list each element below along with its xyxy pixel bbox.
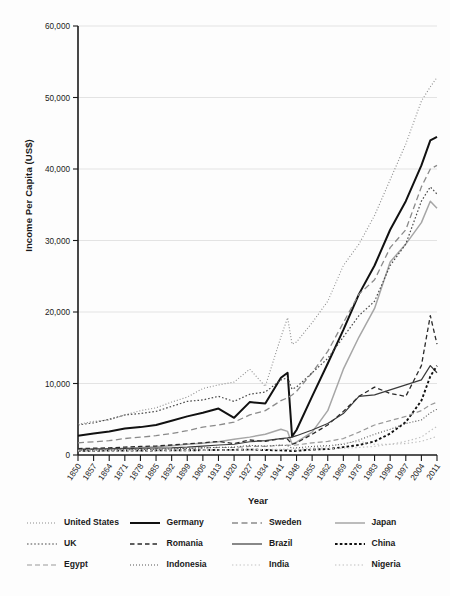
legend-item[interactable]: Germany (129, 518, 232, 528)
series-line (78, 137, 437, 437)
y-tick-label: 0 (65, 451, 70, 460)
legend-swatch-line-icon (26, 560, 58, 570)
x-tick-label: 1885 (143, 462, 161, 482)
series-line (78, 165, 437, 442)
legend-item[interactable]: Brazil (231, 539, 334, 549)
legend-swatch-line-icon (231, 518, 263, 528)
x-tick-label: 1927 (237, 462, 255, 482)
x-tick-label: 1997 (393, 462, 411, 482)
chart-svg: 010,00020,00030,00040,00050,00060,000185… (0, 0, 450, 510)
legend-item[interactable]: China (334, 539, 437, 549)
x-tick-label: 1934 (253, 462, 271, 482)
legend-item-label: India (269, 560, 289, 569)
series-line (78, 402, 437, 450)
legend-item-label: United States (64, 518, 119, 527)
x-tick-label: 1920 (221, 462, 239, 482)
legend-swatch-line-icon (129, 560, 161, 570)
series-line (78, 366, 437, 450)
legend-item[interactable]: Nigeria (334, 560, 437, 570)
x-tick-label: 1948 (284, 462, 302, 482)
y-tick-label: 20,000 (45, 308, 70, 317)
series-line (78, 187, 437, 425)
legend-swatch-line-icon (26, 518, 58, 528)
x-tick-label: 1969 (331, 462, 349, 482)
x-tick-label: 1864 (97, 462, 115, 482)
legend-item-label: Egypt (64, 560, 88, 569)
x-tick-label: 1899 (175, 462, 193, 482)
legend-item[interactable]: India (231, 560, 334, 570)
x-tick-label: 1962 (315, 462, 333, 482)
x-tick-label: 1976 (346, 462, 364, 482)
legend-item[interactable]: Romania (129, 539, 232, 549)
plot-area: 010,00020,00030,00040,00050,00060,000185… (0, 0, 450, 510)
y-tick-label: 50,000 (45, 94, 70, 103)
legend-item[interactable]: Indonesia (129, 560, 232, 570)
legend-swatch-line-icon (334, 539, 366, 549)
y-tick-label: 10,000 (45, 380, 70, 389)
legend-item-label: Nigeria (372, 560, 401, 569)
x-axis-title: Year (78, 495, 438, 506)
x-tick-label: 1906 (190, 462, 208, 482)
legend-item-label: Sweden (269, 518, 301, 527)
legend-item-label: Japan (372, 518, 397, 527)
legend-item[interactable]: United States (26, 518, 129, 528)
x-tick-label: 2004 (409, 462, 427, 482)
legend-swatch-line-icon (334, 518, 366, 528)
x-tick-label: 1871 (112, 462, 130, 482)
series-line (78, 77, 437, 424)
x-tick-label: 1857 (81, 462, 99, 482)
legend-item-label: UK (64, 539, 76, 548)
legend-swatch-line-icon (231, 560, 263, 570)
x-tick-label: 1878 (128, 462, 146, 482)
legend-swatch-line-icon (231, 539, 263, 549)
legend-item-label: Germany (167, 518, 204, 527)
x-tick-label: 2011 (425, 462, 443, 482)
series-line (78, 409, 437, 450)
legend-item-label: Brazil (269, 539, 292, 548)
legend-item-label: China (372, 539, 396, 548)
x-tick-label: 1983 (362, 462, 380, 482)
x-tick-label: 1850 (65, 462, 83, 482)
chart-legend: United StatesGermanySwedenJapanUKRomania… (26, 512, 436, 582)
y-tick-label: 60,000 (45, 22, 70, 31)
legend-swatch-line-icon (26, 539, 58, 549)
x-tick-label: 1941 (268, 462, 286, 482)
chart-figure: 010,00020,00030,00040,00050,00060,000185… (0, 0, 450, 596)
legend-item[interactable]: UK (26, 539, 129, 549)
legend-swatch-line-icon (129, 518, 161, 528)
legend-item[interactable]: Egypt (26, 560, 129, 570)
x-tick-label: 1892 (159, 462, 177, 482)
legend-item-label: Indonesia (167, 560, 207, 569)
legend-swatch-line-icon (129, 539, 161, 549)
x-tick-label: 1990 (377, 462, 395, 482)
series-line (78, 201, 437, 449)
y-tick-label: 40,000 (45, 165, 70, 174)
legend-swatch-line-icon (334, 560, 366, 570)
legend-item[interactable]: Japan (334, 518, 437, 528)
x-tick-label: 1955 (299, 462, 317, 482)
legend-item-label: Romania (167, 539, 203, 548)
x-tick-label: 1913 (206, 462, 224, 482)
y-axis-title: Income Per Capita (US$) (23, 106, 34, 286)
y-tick-label: 30,000 (45, 237, 70, 246)
legend-item[interactable]: Sweden (231, 518, 334, 528)
